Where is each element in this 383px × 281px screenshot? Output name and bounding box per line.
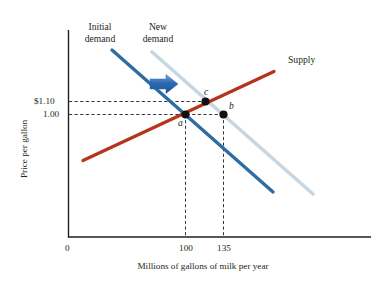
point-c-marker <box>201 97 209 105</box>
x-tick-label-135: 135 <box>210 243 238 253</box>
x-axis-title: Millions of gallons of milk per year <box>88 261 318 271</box>
x-tick-label-100: 100 <box>172 243 200 253</box>
initial-demand-label-line2: demand <box>72 34 128 45</box>
point-b-label: b <box>229 101 234 112</box>
supply-label: Supply <box>288 55 315 66</box>
chart-background <box>0 0 383 281</box>
y-tick-label-low: 1.00 <box>43 109 59 119</box>
new-demand-label-line2: demand <box>133 34 183 45</box>
supply-demand-chart <box>0 0 383 281</box>
point-b-marker <box>219 110 227 118</box>
x-tick-label-origin: 0 <box>65 243 70 253</box>
initial-demand-label-line1: Initial <box>72 22 128 33</box>
y-axis-title: Price per gallon <box>19 120 29 178</box>
new-demand-label-line1: New <box>133 22 183 33</box>
point-c-label: c <box>204 87 208 98</box>
point-a-label: a <box>178 118 183 129</box>
y-tick-label-high: $1.10 <box>34 96 55 106</box>
